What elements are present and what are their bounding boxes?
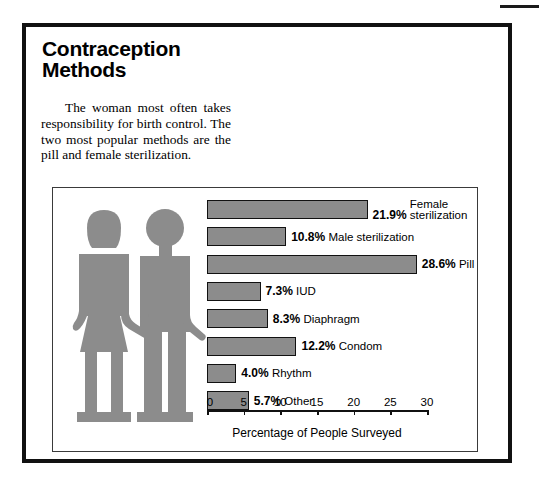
bar-row: 8.3% Diaphragm xyxy=(207,309,427,328)
page-title-line-2: Methods xyxy=(42,59,342,80)
bar-category-label: Pill xyxy=(459,258,474,270)
bar-annotation: 21.9% Femalesterilization xyxy=(373,198,468,221)
bar-category-label: IUD xyxy=(296,285,316,297)
bar-value-label: 10.8% xyxy=(291,230,325,244)
bar-annotation: 4.0% Rhythm xyxy=(241,367,311,379)
x-axis-tick xyxy=(207,410,209,415)
x-axis-tick xyxy=(390,410,392,415)
intro-paragraph: The woman most often takes responsibilit… xyxy=(41,100,231,162)
top-rule xyxy=(500,5,539,8)
bar-category-label: Rhythm xyxy=(272,367,312,379)
x-axis-tick xyxy=(354,410,356,415)
bar-row: 7.3% IUD xyxy=(207,282,427,301)
x-axis-tick xyxy=(317,410,319,415)
bar-row: 12.2% Condom xyxy=(207,337,427,356)
bar-group: 21.9% Femalesterilization10.8% Male ster… xyxy=(207,198,469,413)
bar-category-label: Condom xyxy=(339,340,382,352)
x-axis: 051015202530 xyxy=(207,398,427,420)
bar-annotation: 7.3% IUD xyxy=(266,285,316,297)
x-axis-tick-label: 30 xyxy=(421,396,434,408)
page-title-line-1: Contraception xyxy=(42,38,342,59)
bar[interactable] xyxy=(207,364,236,383)
bar-row: 21.9% Femalesterilization xyxy=(207,200,427,219)
bar-annotation: 8.3% Diaphragm xyxy=(273,313,360,325)
x-axis-tick xyxy=(244,410,246,415)
x-axis-tick-label: 10 xyxy=(274,396,287,408)
bar-chart: 21.9% Femalesterilization10.8% Male ster… xyxy=(207,198,469,446)
bar-category-label: Diaphragm xyxy=(303,313,359,325)
x-axis-tick-label: 25 xyxy=(384,396,397,408)
bar-value-label: 28.6% xyxy=(422,257,456,271)
bar[interactable] xyxy=(207,227,286,246)
x-axis-tick-label: 5 xyxy=(240,396,246,408)
bar-value-label: 12.2% xyxy=(301,339,335,353)
x-axis-tick xyxy=(427,410,429,415)
x-axis-tick xyxy=(280,410,282,415)
bar-category-label: Male sterilization xyxy=(328,231,414,243)
bar-value-label: 7.3% xyxy=(266,284,293,298)
page-title: Contraception Methods xyxy=(42,38,342,80)
bar-annotation: 12.2% Condom xyxy=(301,340,382,352)
chart-panel: 21.9% Femalesterilization10.8% Male ster… xyxy=(52,187,478,452)
bar[interactable] xyxy=(207,282,261,301)
x-axis-tick-label: 20 xyxy=(347,396,360,408)
bar-annotation: 28.6% Pill xyxy=(422,258,475,270)
bar[interactable] xyxy=(207,200,368,219)
couple-pictogram-icon xyxy=(61,198,207,428)
x-axis-tick-label: 0 xyxy=(207,396,213,408)
bar[interactable] xyxy=(207,255,417,274)
bar-annotation: 10.8% Male sterilization xyxy=(291,231,414,243)
bar-value-label: 21.9% xyxy=(373,210,407,222)
bar[interactable] xyxy=(207,337,296,356)
bar-value-label: 4.0% xyxy=(241,366,268,380)
bar-row: 4.0% Rhythm xyxy=(207,364,427,383)
bar[interactable] xyxy=(207,309,268,328)
bar-value-label: 8.3% xyxy=(273,312,300,326)
infographic-frame: Contraception Methods The woman most oft… xyxy=(22,23,512,463)
bar-category-label: Femalesterilization xyxy=(410,198,468,221)
x-axis-title: Percentage of People Surveyed xyxy=(207,426,427,440)
x-axis-tick-label: 15 xyxy=(311,396,324,408)
bar-row: 28.6% Pill xyxy=(207,255,427,274)
bar-row: 10.8% Male sterilization xyxy=(207,227,427,246)
